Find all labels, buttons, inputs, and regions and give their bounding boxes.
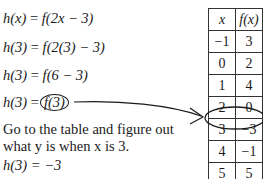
equals: = (31, 67, 39, 83)
equals: = (31, 94, 39, 110)
step-3-lhs: h(3) (3, 67, 27, 83)
table-row: 02 (209, 53, 263, 75)
cell: 2 (209, 97, 236, 119)
cell: 3 (209, 119, 236, 141)
cell: 0 (209, 53, 236, 75)
function-table: x f(x) −13 02 14 20 3−3 4−1 55 (208, 8, 263, 179)
step-4-lhs: h(3) (3, 94, 27, 110)
step-1-rhs: f(2x − 3) (42, 10, 94, 26)
circled-f3: f(3) (40, 94, 69, 111)
cell: 4 (209, 141, 236, 163)
step-2-rhs: f(2(3) − 3) (43, 39, 105, 55)
step-3-rhs: f(6 − 3) (43, 67, 88, 83)
step-1-lhs: h(x) (3, 10, 26, 26)
cell: 1 (209, 75, 236, 97)
cell: −1 (236, 141, 263, 163)
header-fx: f(x) (236, 9, 263, 31)
table-row: 20 (209, 97, 263, 119)
cell: −3 (236, 119, 263, 141)
cell: 0 (236, 97, 263, 119)
table-row: −13 (209, 31, 263, 53)
equals: = (31, 39, 39, 55)
cell: 2 (236, 53, 263, 75)
step-4: h(3) =f(3) (3, 94, 69, 111)
table-row-highlighted: 3−3 (209, 119, 263, 141)
cell: 5 (236, 163, 263, 180)
equals: = (30, 10, 38, 26)
step-2-lhs: h(3) (3, 39, 27, 55)
step-1: h(x) = f(2x − 3) (3, 10, 93, 26)
cell: −1 (209, 31, 236, 53)
step-2: h(3) = f(2(3) − 3) (3, 39, 105, 55)
instruction-note: Go to the table and figure out what y is… (3, 121, 193, 155)
table-row: 14 (209, 75, 263, 97)
table-row: 4−1 (209, 141, 263, 163)
cell: 5 (209, 163, 236, 180)
header-x: x (209, 9, 236, 31)
table-row: 55 (209, 163, 263, 180)
table-header-row: x f(x) (209, 9, 263, 31)
cell: 3 (236, 31, 263, 53)
arrow-line (74, 102, 201, 116)
cell: 4 (236, 75, 263, 97)
answer: h(3) = −3 (3, 157, 61, 173)
step-3: h(3) = f(6 − 3) (3, 67, 88, 83)
